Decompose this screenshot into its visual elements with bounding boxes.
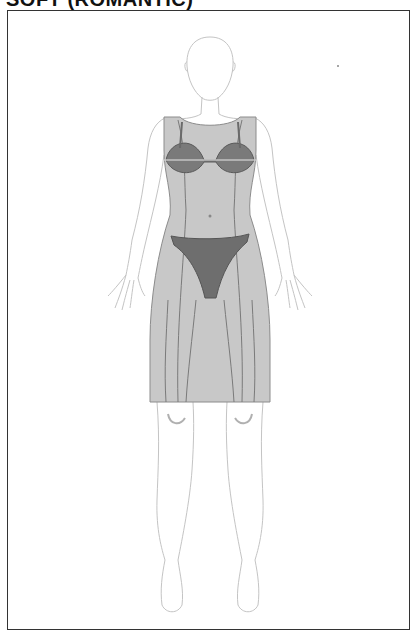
fashion-croquis <box>0 0 412 639</box>
left-hand <box>108 275 145 310</box>
left-leg <box>157 402 194 612</box>
right-hand <box>275 275 312 310</box>
right-leg <box>226 402 263 612</box>
right-arm <box>255 118 294 275</box>
head <box>187 37 233 100</box>
left-arm <box>126 118 165 275</box>
